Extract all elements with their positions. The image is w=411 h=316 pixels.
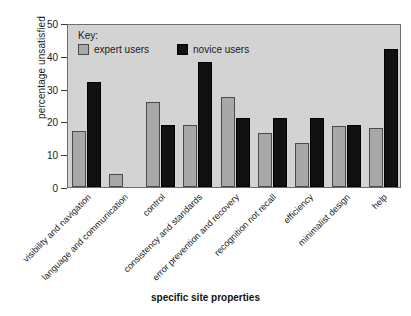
bar-novice (347, 125, 361, 187)
bar-expert (332, 126, 346, 187)
y-tick-label: 0 (33, 188, 58, 189)
y-tick-mark (61, 188, 67, 189)
bar-expert (295, 143, 309, 187)
legend: Key: expert users novice users (78, 30, 277, 55)
legend-entry-expert: expert users (78, 44, 149, 55)
bar-chart-figure: percentage unsatisfied 01020304050 Key: … (0, 0, 411, 316)
bar-expert (369, 128, 383, 187)
bar-expert (221, 97, 235, 187)
x-axis-title: specific site properties (0, 292, 411, 303)
y-tick-label: 20 (33, 122, 58, 123)
legend-swatch-novice-icon (177, 44, 188, 55)
plot-area: Key: expert users novice users (67, 24, 401, 188)
bar-novice (236, 118, 250, 187)
y-tick-label: 10 (33, 155, 58, 156)
legend-label-novice: novice users (193, 44, 249, 55)
bar-novice (161, 125, 175, 187)
bar-novice (310, 118, 324, 187)
bar-expert (72, 131, 86, 187)
bar-novice (384, 49, 398, 187)
legend-items: expert users novice users (78, 44, 277, 55)
bar-expert (109, 174, 123, 187)
y-tick-label: 40 (33, 57, 58, 58)
bar-novice (87, 82, 101, 187)
bar-expert (183, 125, 197, 187)
bar-expert (146, 102, 160, 187)
legend-entry-novice: novice users (177, 44, 249, 55)
bar-expert (258, 133, 272, 187)
bar-novice (273, 118, 287, 187)
y-axis-title: percentage unsatisfied (36, 0, 47, 153)
legend-swatch-expert-icon (78, 44, 89, 55)
y-tick-label: 30 (33, 90, 58, 91)
y-tick-label: 50 (33, 24, 58, 25)
legend-title: Key: (78, 30, 277, 41)
legend-label-expert: expert users (94, 44, 149, 55)
bar-novice (198, 62, 212, 187)
